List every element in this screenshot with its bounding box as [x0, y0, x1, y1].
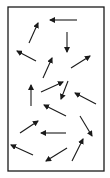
diagram-frame	[8, 7, 104, 171]
arrow-10	[75, 93, 96, 104]
arrow-17	[72, 139, 83, 161]
arrow-16	[46, 148, 67, 161]
arrow-2	[29, 23, 38, 43]
arrow-5	[43, 58, 52, 78]
arrow-4	[17, 51, 36, 61]
arrow-11	[44, 105, 66, 116]
arrow-9	[61, 81, 68, 99]
arrow-6	[71, 56, 90, 68]
arrow-8	[41, 82, 63, 92]
vector-field-diagram	[0, 0, 110, 178]
arrow-group	[11, 20, 96, 161]
arrow-15	[11, 145, 33, 155]
arrow-12	[80, 116, 92, 136]
arrow-13	[20, 121, 38, 133]
